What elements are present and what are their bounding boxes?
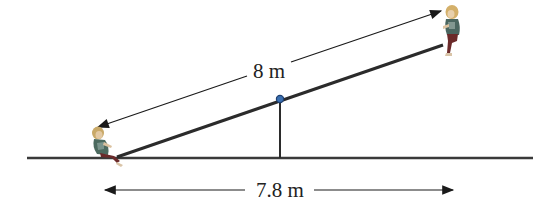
- seesaw-diagram: 8 m 7.8 m: [0, 0, 547, 208]
- span-label: 7.8 m: [256, 178, 304, 202]
- pivot-point: [276, 95, 283, 102]
- child-left-figure: [92, 127, 123, 168]
- plank-length-dimension: 8 m: [98, 11, 441, 127]
- plank-length-label: 8 m: [253, 59, 285, 83]
- horizontal-span-dimension: 7.8 m: [105, 178, 453, 202]
- child-right-figure: [443, 5, 460, 56]
